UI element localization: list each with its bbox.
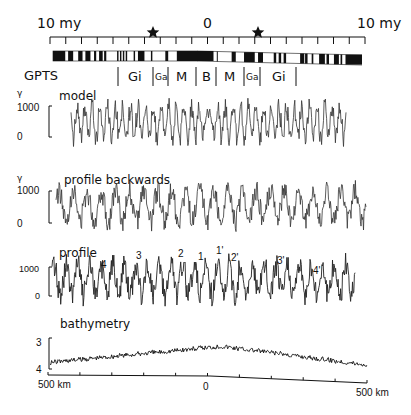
normal-polarity-block: [94, 51, 96, 61]
normal-polarity-block: [319, 54, 325, 64]
normal-polarity-block: [177, 51, 197, 61]
normal-polarity-block: [151, 51, 152, 61]
chron-matuyama: M: [176, 69, 187, 84]
gamma-label: γ: [17, 88, 23, 98]
peak-label-2: 2: [178, 248, 184, 259]
normal-polarity-block: [244, 52, 255, 62]
normal-polarity-block: [126, 51, 127, 61]
y-tick-1000: 1000: [17, 185, 40, 196]
normal-polarity-block: [279, 53, 281, 63]
chron-matuyama: M: [224, 69, 235, 84]
normal-polarity-block: [68, 51, 73, 61]
peak-label-4: 4: [101, 259, 107, 270]
chron-gauss: Ga: [155, 72, 168, 82]
chron-gilbert: Gi: [128, 69, 142, 84]
panel-title: profile: [59, 246, 97, 260]
star-icon: [252, 26, 265, 38]
panel-profile: profile 1000 0 4 3 2 1 1' 2' 3' 4': [19, 245, 355, 306]
time-label-left: 10 my: [37, 15, 81, 31]
gpts-bar-left: [53, 51, 197, 61]
chron-gilbert: Gi: [272, 69, 286, 84]
distance-label-center: 0: [203, 381, 209, 392]
peak-label-2-prime: 2': [231, 252, 239, 263]
gpts-chrons: GPTS Gi Ga M B M Ga Gi: [24, 67, 296, 86]
y-tick-0: 0: [35, 291, 40, 301]
gpts-label: GPTS: [24, 68, 58, 83]
normal-polarity-block: [53, 51, 65, 61]
bathymetry-curve: [50, 345, 367, 367]
y-tick-1000: 1000: [19, 264, 39, 274]
normal-polarity-block: [341, 54, 343, 64]
time-scale: 10 my 0 10 my: [37, 15, 401, 44]
normal-polarity-block: [300, 54, 304, 64]
panel-profile-backwards: γ profile backwards 1000 0: [17, 173, 366, 232]
y-tick-1000: 1000: [17, 102, 40, 113]
normal-polarity-block: [104, 51, 106, 61]
gpts-bar-right: [197, 51, 362, 65]
panel-model: γ model 1000 0: [17, 88, 346, 147]
normal-polarity-block: [134, 51, 135, 61]
gpts-bar: [53, 51, 362, 65]
y-tick-3: 3: [36, 337, 42, 348]
normal-polarity-block: [274, 53, 276, 63]
normal-polarity-block: [217, 51, 218, 61]
y-tick-4: 4: [36, 364, 42, 375]
normal-polarity-block: [85, 51, 90, 61]
normal-polarity-block: [258, 52, 263, 62]
panel-title: bathymetry: [60, 317, 130, 331]
normal-polarity-block: [165, 51, 168, 61]
peak-label-1: 1: [198, 251, 204, 262]
y-axis-bracket: [49, 191, 52, 223]
y-tick-0: 0: [17, 218, 23, 229]
normal-polarity-block: [197, 51, 214, 61]
peak-label-1-prime: 1': [216, 245, 224, 256]
time-ticks: [50, 37, 365, 44]
profile-backwards-curve: [56, 180, 366, 231]
normal-polarity-block: [138, 51, 144, 61]
time-label-center: 0: [203, 15, 212, 31]
model-curve: [71, 98, 346, 146]
normal-polarity-block: [284, 53, 286, 63]
normal-polarity-block: [334, 54, 339, 64]
chron-gauss: Ga: [246, 72, 259, 82]
y-axis-bracket: [49, 267, 52, 296]
gamma-label: γ: [17, 173, 23, 183]
y-axis-bracket: [49, 106, 52, 137]
normal-polarity-block: [232, 52, 236, 62]
distance-label-left: 500 km: [38, 379, 71, 390]
time-label-right: 10 my: [357, 15, 401, 31]
chron-brunhes: B: [202, 69, 211, 84]
panel-bathymetry: bathymetry 3 4 500 km 0 500 km: [36, 317, 389, 398]
normal-polarity-block: [120, 51, 121, 61]
normal-polarity-block: [117, 51, 118, 61]
peak-label-3: 3: [136, 250, 142, 261]
peak-label-4-prime: 4': [313, 265, 321, 276]
normal-polarity-block: [327, 54, 329, 64]
normal-polarity-block: [123, 51, 124, 61]
star-icon: [147, 26, 160, 38]
normal-polarity-block: [312, 54, 314, 64]
distance-label-right: 500 km: [356, 387, 389, 398]
y-tick-0: 0: [17, 131, 23, 142]
normal-polarity-block: [99, 51, 103, 61]
normal-polarity-block: [305, 54, 307, 64]
peak-label-3-prime: 3': [277, 255, 285, 266]
normal-polarity-block: [78, 51, 82, 61]
normal-polarity-block: [346, 55, 363, 65]
panel-title: model: [59, 89, 96, 103]
figure: 10 my 0 10 my GPTS Gi Ga M B M Ga Gi γ m…: [0, 0, 411, 415]
